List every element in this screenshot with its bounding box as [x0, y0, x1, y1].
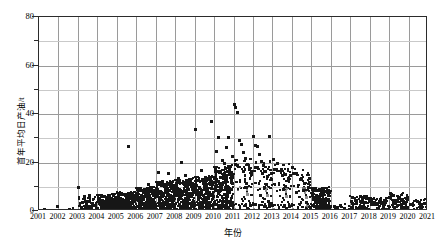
scatter-point: [144, 191, 146, 193]
scatter-point: [223, 189, 225, 191]
scatter-point: [159, 181, 161, 183]
scatter-point: [295, 209, 297, 210]
scatter-point: [258, 153, 261, 156]
gridline-vertical: [78, 17, 79, 209]
scatter-point: [213, 201, 215, 203]
scatter-point: [243, 187, 245, 189]
scatter-point: [227, 209, 230, 210]
scatter-point: [298, 209, 301, 210]
scatter-point: [176, 194, 179, 197]
scatter-point: [259, 209, 262, 210]
scatter-point: [252, 204, 254, 206]
scatter-point: [140, 209, 142, 210]
gridline-vertical: [409, 17, 410, 209]
scatter-point: [308, 209, 310, 210]
scatter-point: [170, 186, 172, 188]
scatter-point: [86, 200, 88, 202]
y-tick-label: 20: [0, 158, 34, 167]
scatter-point: [78, 196, 80, 198]
scatter-point: [169, 210, 172, 211]
scatter-point: [278, 209, 281, 210]
scatter-point: [140, 208, 142, 210]
scatter-point: [246, 192, 248, 194]
scatter-point: [88, 209, 90, 210]
scatter-point: [306, 208, 308, 210]
scatter-point: [184, 203, 186, 205]
scatter-point: [224, 209, 226, 210]
scatter-point: [299, 209, 301, 210]
scatter-point: [237, 188, 239, 190]
scatter-point: [280, 209, 282, 210]
scatter-point: [393, 209, 395, 210]
scatter-point: [242, 200, 244, 202]
scatter-point: [195, 209, 197, 210]
scatter-point: [259, 209, 262, 210]
scatter-point: [67, 209, 69, 210]
scatter-point: [227, 181, 229, 183]
scatter-point: [92, 198, 94, 200]
scatter-point: [282, 164, 284, 166]
scatter-point: [167, 202, 169, 204]
scatter-point: [352, 207, 354, 209]
scatter-point: [260, 209, 262, 210]
scatter-point: [261, 201, 263, 203]
scatter-point: [300, 201, 302, 203]
scatter-point: [137, 195, 139, 197]
scatter-point: [166, 198, 169, 201]
scatter-point: [241, 209, 243, 210]
scatter-point: [112, 209, 114, 210]
scatter-point: [208, 206, 211, 209]
scatter-point: [126, 201, 128, 203]
scatter-point: [317, 209, 319, 210]
scatter-point: [171, 181, 173, 183]
scatter-point: [202, 209, 205, 210]
scatter-point: [420, 199, 422, 201]
scatter-point: [253, 209, 256, 210]
scatter-point: [297, 174, 299, 176]
scatter-point: [260, 209, 262, 210]
scatter-point: [295, 209, 297, 210]
plot-area: [38, 16, 427, 210]
scatter-point: [308, 209, 310, 210]
scatter-point: [272, 209, 275, 210]
scatter-point: [259, 194, 261, 196]
scatter-point: [278, 184, 280, 186]
scatter-point: [170, 205, 172, 207]
scatter-point: [234, 163, 237, 166]
scatter-point: [314, 189, 317, 192]
scatter-point: [125, 195, 128, 198]
scatter-point: [298, 209, 301, 210]
scatter-point: [305, 196, 308, 199]
scatter-point: [299, 209, 301, 210]
scatter-point: [191, 209, 193, 210]
scatter-point: [259, 209, 262, 210]
scatter-point: [147, 209, 149, 210]
scatter-point: [78, 198, 80, 200]
scatter-point: [315, 195, 317, 197]
scatter-point: [249, 177, 251, 179]
scatter-point: [83, 209, 86, 210]
scatter-point: [265, 189, 267, 191]
scatter-point: [266, 207, 268, 209]
scatter-point: [193, 197, 195, 199]
scatter-point: [98, 209, 100, 210]
scatter-point: [260, 209, 262, 210]
scatter-point: [220, 190, 222, 192]
scatter-point: [214, 208, 216, 210]
scatter-point: [275, 168, 278, 171]
scatter-point: [248, 166, 250, 168]
scatter-point: [219, 172, 221, 174]
scatter-point: [173, 198, 175, 200]
scatter-point: [272, 209, 275, 210]
scatter-point: [182, 205, 184, 207]
scatter-point: [259, 209, 262, 210]
scatter-point: [297, 186, 299, 188]
scatter-point: [311, 205, 313, 207]
scatter-point: [217, 209, 219, 210]
scatter-point: [319, 190, 321, 192]
scatter-point: [259, 209, 262, 210]
scatter-point: [301, 198, 303, 200]
scatter-point: [233, 209, 236, 210]
scatter-point: [246, 189, 248, 191]
scatter-point: [280, 209, 282, 210]
